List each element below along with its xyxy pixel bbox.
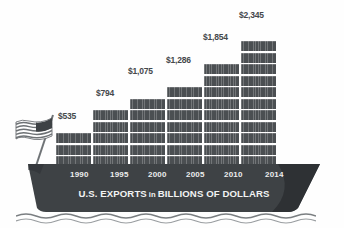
container-block xyxy=(93,145,128,155)
cargo-ship-icon: 1990 1995 2000 2005 2010 2014 U.S. EXPOR… xyxy=(26,164,322,216)
container-block xyxy=(241,122,276,132)
container-block xyxy=(241,53,276,63)
value-label-1990: $535 xyxy=(58,111,76,121)
value-label-2014: $2,345 xyxy=(239,10,264,20)
container-block xyxy=(93,122,128,132)
container-block xyxy=(241,64,276,74)
water-waves-icon xyxy=(16,212,316,226)
container-block xyxy=(204,145,239,155)
value-label-1995: $794 xyxy=(96,88,114,98)
container-block xyxy=(204,87,239,97)
container-block xyxy=(56,133,91,143)
container-block xyxy=(93,110,128,120)
container-block xyxy=(130,122,165,132)
container-block xyxy=(167,122,202,132)
container-block xyxy=(130,145,165,155)
container-block xyxy=(204,64,239,74)
container-block xyxy=(241,99,276,109)
container-block xyxy=(56,145,91,155)
container-block xyxy=(167,133,202,143)
container-block xyxy=(241,87,276,97)
year-label-1995: 1995 xyxy=(110,170,129,179)
container-block xyxy=(204,133,239,143)
container-block xyxy=(241,41,276,51)
chart-title: U.S. EXPORTSinBILLIONS OF DOLLARS xyxy=(26,188,322,199)
infographic-canvas: $535 $794 $1,075 xyxy=(0,0,344,228)
value-label-2000: $1,075 xyxy=(128,66,153,76)
container-block xyxy=(204,122,239,132)
container-block xyxy=(130,99,165,109)
value-label-2005: $1,286 xyxy=(166,55,191,65)
container-block xyxy=(130,110,165,120)
container-block xyxy=(241,133,276,143)
container-block xyxy=(241,110,276,120)
container-block xyxy=(130,133,165,143)
value-label-2010: $1,854 xyxy=(203,32,228,42)
chart-title-part-a: U.S. EXPORTS xyxy=(78,188,146,199)
container-block xyxy=(241,145,276,155)
container-block xyxy=(167,145,202,155)
bar-1990 xyxy=(56,133,91,166)
bar-2000 xyxy=(130,99,165,167)
container-block xyxy=(241,76,276,86)
bar-2005 xyxy=(167,87,202,166)
bar-2010 xyxy=(204,64,239,166)
container-block xyxy=(167,99,202,109)
year-label-2000: 2000 xyxy=(148,170,167,179)
year-label-2010: 2010 xyxy=(224,170,243,179)
chart-title-part-small: in xyxy=(149,190,156,199)
container-block xyxy=(93,133,128,143)
container-block xyxy=(204,99,239,109)
container-block xyxy=(204,110,239,120)
year-label-2014: 2014 xyxy=(265,170,284,179)
bar-2014 xyxy=(241,41,276,166)
year-label-2005: 2005 xyxy=(186,170,205,179)
container-block xyxy=(167,110,202,120)
chart-title-part-b: BILLIONS OF DOLLARS xyxy=(158,188,270,199)
year-label-1990: 1990 xyxy=(70,170,89,179)
container-block xyxy=(204,76,239,86)
bar-1995 xyxy=(93,110,128,166)
container-block xyxy=(167,87,202,97)
